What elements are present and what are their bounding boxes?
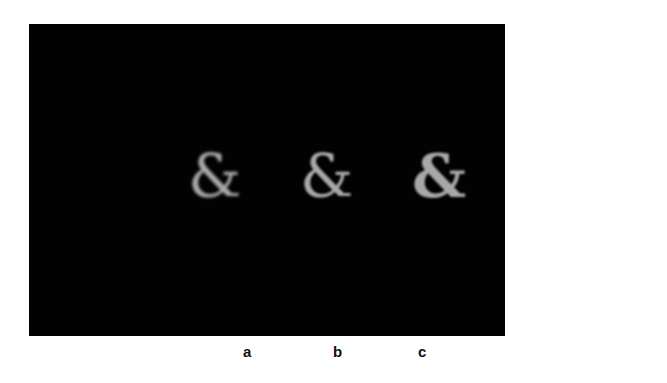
label-b: b — [333, 343, 342, 360]
label-a: a — [243, 343, 251, 360]
ampersand-glyph-c: & — [412, 136, 466, 216]
label-c: c — [418, 343, 426, 360]
ampersand-glyph-a: & — [188, 136, 241, 216]
ampersand-glyph-b: & — [300, 136, 353, 216]
